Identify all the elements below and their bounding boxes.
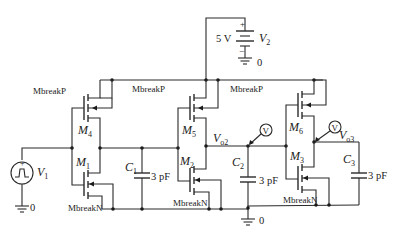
c1-value-label: 3 pF xyxy=(151,171,170,182)
m2-model-label: MbreakN xyxy=(173,198,208,208)
c2-value-label: 3 pF xyxy=(259,175,278,186)
v2-name-label: V2 xyxy=(259,31,270,47)
voltage-probe-vo2[interactable]: V xyxy=(249,124,272,145)
v2-minus-label: − xyxy=(239,46,244,56)
m6-name-label: M6 xyxy=(288,120,303,136)
circuit-schematic: + − 5 V V2 0 MbreakP M4 + xyxy=(0,0,394,241)
stage1-output-net xyxy=(98,146,180,150)
vo2-node-label: Vo2 xyxy=(213,131,228,147)
m5-model-label: MbreakP xyxy=(132,84,165,94)
m1-model-label: MbreakN xyxy=(68,203,103,213)
v2-value-label: 5 V xyxy=(216,33,232,44)
m6-model-label: MbreakP xyxy=(230,84,263,94)
vdd-rail xyxy=(110,78,323,82)
m5-name-label: M5 xyxy=(181,123,196,139)
c3-value-label: 3 pF xyxy=(368,170,387,181)
v1-ground-label: 0 xyxy=(30,202,35,213)
svg-text:V: V xyxy=(332,123,339,133)
c1-name-label: C1 xyxy=(125,160,137,176)
c2-capacitor xyxy=(240,146,256,209)
ground-rail xyxy=(102,203,359,225)
voltage-probe-vo3[interactable]: V xyxy=(315,121,341,142)
m4-model-label: MbreakP xyxy=(33,86,66,96)
svg-text:+: + xyxy=(20,159,25,168)
v1-name-label: V1 xyxy=(37,165,48,181)
m2-name-label: M2 xyxy=(179,154,194,170)
c3-name-label: C3 xyxy=(343,152,355,168)
m1-name-label: M1 xyxy=(75,155,90,171)
c1-capacitor xyxy=(134,148,150,209)
m3-model-label: MbreakN xyxy=(283,195,318,205)
v1-pulse-source: + xyxy=(11,148,72,212)
m4-pmos-transistor xyxy=(72,80,112,148)
m5-pmos-transistor xyxy=(178,80,218,148)
v2-ground-label: 0 xyxy=(257,57,262,68)
v2-battery xyxy=(206,18,254,80)
m4-name-label: M4 xyxy=(77,123,92,139)
svg-text:V: V xyxy=(263,126,270,136)
c3-capacitor xyxy=(351,142,367,205)
vo3-node-label: Vo3 xyxy=(339,128,354,144)
m3-name-label: M3 xyxy=(289,149,304,165)
ground-label: 0 xyxy=(259,215,264,226)
c2-name-label: C2 xyxy=(232,155,244,171)
m6-pmos-transistor xyxy=(286,80,326,146)
v2-plus-label: + xyxy=(240,19,245,29)
